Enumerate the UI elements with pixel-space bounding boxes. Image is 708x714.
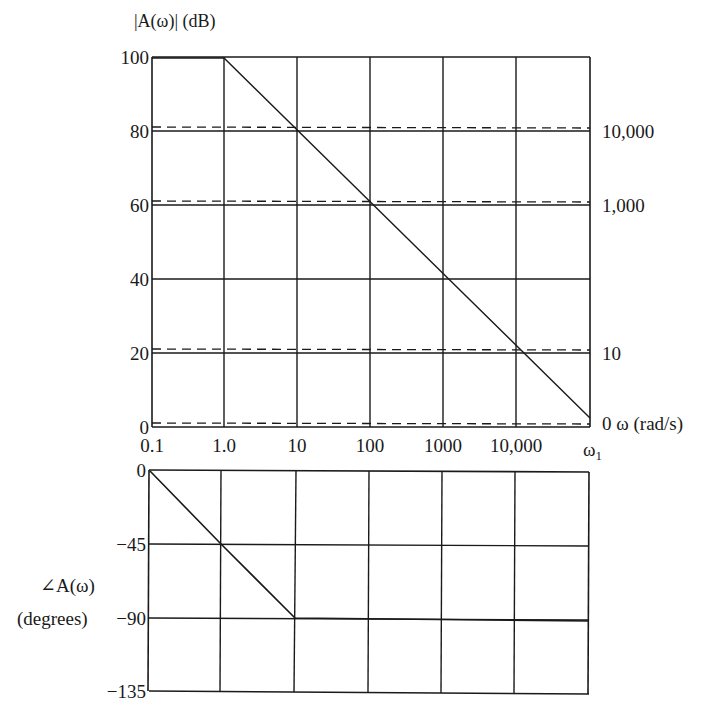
mag-y-tick-80: 80 xyxy=(89,122,149,141)
right-label-1000: 1,000 xyxy=(602,196,645,215)
right-label-0-value: 0 xyxy=(602,413,612,434)
right-label-10000: 10,000 xyxy=(602,122,654,141)
right-label-0: 0 ω (rad/s) xyxy=(602,414,683,433)
x-tick-10: 10 xyxy=(257,436,337,455)
magnitude-curve xyxy=(152,58,590,418)
mag-y-tick-60: 60 xyxy=(89,196,149,215)
mag-y-tick-40: 40 xyxy=(89,270,149,289)
right-label-10: 10 xyxy=(602,344,621,363)
x-tick-omega1: ω1 xyxy=(583,440,602,462)
phase-y-tick-0: 0 xyxy=(86,461,146,480)
phase-y-tick-135: −135 xyxy=(86,682,146,701)
phase-plot xyxy=(148,470,589,694)
x-tick-1.0: 1.0 xyxy=(184,436,264,455)
mag-y-tick-100: 100 xyxy=(89,48,149,67)
x-tick-100: 100 xyxy=(330,436,410,455)
mag-y-tick-20: 20 xyxy=(89,344,149,363)
phase-y-tick-45: −45 xyxy=(86,535,146,554)
magnitude-title: |A(ω)| (dB) xyxy=(134,12,216,30)
x-tick-1000: 1000 xyxy=(403,436,483,455)
phase-ylabel-line2: (degrees) xyxy=(17,609,88,628)
omega-symbol: ω xyxy=(583,439,596,460)
phase-ylabel-line1: ∠A(ω) xyxy=(40,576,95,595)
omega-subscript: 1 xyxy=(596,448,603,463)
x-tick-0.1: 0.1 xyxy=(112,436,192,455)
x-tick-10000: 10,000 xyxy=(476,436,556,455)
magnitude-plot xyxy=(152,57,590,427)
x-axis-label: ω (rad/s) xyxy=(616,413,683,434)
phase-y-tick-90: −90 xyxy=(86,609,146,628)
